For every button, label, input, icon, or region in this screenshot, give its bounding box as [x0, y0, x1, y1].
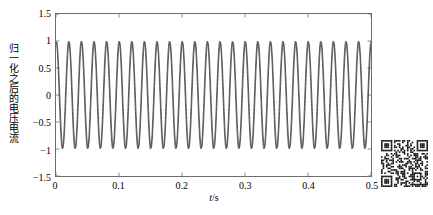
plot-area — [55, 13, 372, 177]
x-tick-label: 0.3 — [239, 180, 252, 191]
x-tick-label: 0.4 — [302, 180, 315, 191]
waveform-plot — [56, 14, 371, 176]
x-axis-title: t/s — [209, 192, 218, 203]
figure-root: 归一化之后的电压电流 1.510.50−0.5−1−1.5 00.10.20.3… — [0, 0, 433, 215]
x-axis-title-unit: /s — [212, 192, 219, 203]
qr-code[interactable] — [381, 140, 428, 187]
x-tick-label: 0.1 — [112, 180, 125, 191]
x-tick-label: 0.5 — [366, 180, 379, 191]
qr-code-image — [381, 140, 428, 187]
x-tick-label: 0.2 — [176, 180, 189, 191]
x-tick-label: 0 — [53, 180, 58, 191]
waveform-line — [56, 41, 371, 149]
